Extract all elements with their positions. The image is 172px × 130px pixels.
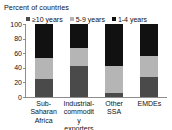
- bar-segment[interactable]: [35, 24, 53, 58]
- y-tick-label: 80: [1, 35, 22, 42]
- clipped-title-text: [4, 0, 168, 2]
- bar-segment[interactable]: [105, 24, 123, 66]
- y-tick-label: 60: [1, 50, 22, 57]
- legend-label-5-9-years: 5-9 years: [76, 16, 105, 23]
- legend-item-1-4-years: 1-4 years: [112, 16, 147, 23]
- legend-swatch-1-4-years: [112, 17, 116, 21]
- bar-segment[interactable]: [140, 77, 158, 97]
- chart-legend: ≥10 years 5-9 years 1-4 years: [26, 14, 172, 24]
- y-tick-mark: [23, 39, 25, 40]
- y-tick-label: 0: [1, 94, 22, 101]
- legend-item-ge-10-years: ≥10 years: [26, 16, 63, 23]
- x-category-label-3: EMDEs: [132, 100, 167, 108]
- y-tick-label: 40: [1, 64, 22, 71]
- y-tick-mark: [23, 24, 25, 25]
- bar-segment[interactable]: [70, 24, 88, 48]
- y-tick-mark: [23, 97, 25, 98]
- x-axis-line: [25, 97, 167, 98]
- plot-area: 100806040200: [25, 24, 167, 98]
- bar-group: [26, 24, 167, 97]
- x-category-label-2: OtherSSA: [97, 100, 132, 117]
- legend-label-ge-10-years: ≥10 years: [32, 16, 63, 23]
- axis-unit-caption: Percent of countries: [4, 3, 69, 12]
- stacked-bar[interactable]: [105, 24, 123, 97]
- stacked-bar[interactable]: [140, 24, 158, 97]
- bar-slot: [132, 24, 167, 97]
- y-tick-mark: [23, 82, 25, 83]
- bar-segment[interactable]: [140, 56, 158, 77]
- bar-segment[interactable]: [35, 58, 53, 78]
- bar-slot: [26, 24, 61, 97]
- legend-swatch-ge-10-years: [26, 17, 30, 21]
- stacked-bar[interactable]: [70, 24, 88, 97]
- y-tick-mark: [23, 53, 25, 54]
- x-axis-category-labels: Sub-SaharanAfricaIndustrial-commodityexp…: [26, 100, 167, 130]
- bar-slot: [61, 24, 96, 97]
- legend-label-1-4-years: 1-4 years: [118, 16, 147, 23]
- bar-segment[interactable]: [70, 48, 88, 66]
- y-tick-label: 100: [1, 21, 22, 28]
- bar-slot: [97, 24, 132, 97]
- y-tick-label: 20: [1, 79, 22, 86]
- bar-segment[interactable]: [105, 93, 123, 97]
- legend-item-5-9-years: 5-9 years: [70, 16, 105, 23]
- legend-swatch-5-9-years: [70, 17, 74, 21]
- stacked-bar[interactable]: [35, 24, 53, 97]
- x-category-label-1: Industrial-commodityexporters: [61, 100, 96, 130]
- bar-segment[interactable]: [35, 79, 53, 97]
- bar-segment[interactable]: [105, 66, 123, 94]
- x-category-label-0: Sub-SaharanAfrica: [26, 100, 61, 125]
- stacked-bar-chart: Percent of countries ≥10 years 5-9 years…: [0, 0, 172, 130]
- bar-segment[interactable]: [140, 24, 158, 56]
- bar-segment[interactable]: [70, 66, 88, 97]
- y-tick-mark: [23, 68, 25, 69]
